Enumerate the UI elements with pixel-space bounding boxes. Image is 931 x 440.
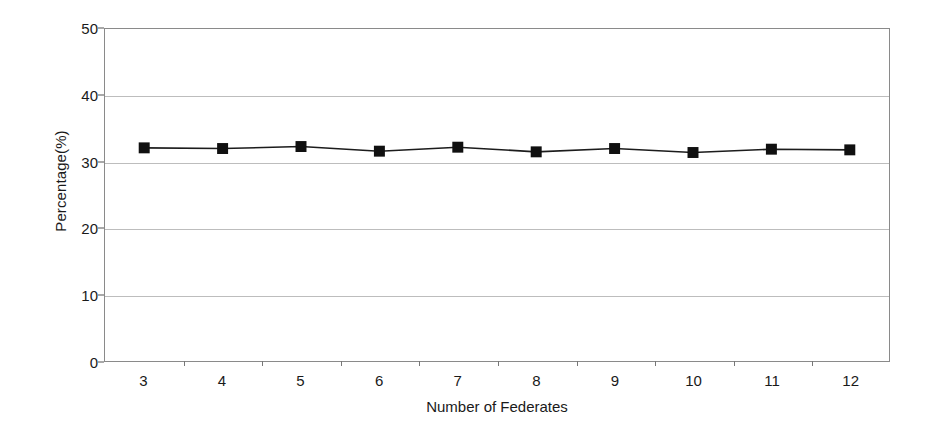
data-point-marker bbox=[688, 147, 699, 158]
x-axis-tick-mark bbox=[184, 361, 185, 366]
plot-area bbox=[104, 28, 890, 362]
x-axis-tick-mark bbox=[419, 361, 420, 366]
x-axis-tick-label: 8 bbox=[532, 372, 540, 389]
y-axis-tick-label: 40 bbox=[81, 86, 98, 103]
data-series-line bbox=[105, 29, 889, 361]
data-point-marker bbox=[139, 142, 150, 153]
x-axis-tick-label: 12 bbox=[842, 372, 859, 389]
data-point-marker bbox=[766, 144, 777, 155]
y-axis-tick-labels: 01020304050 bbox=[56, 28, 98, 362]
x-axis-tick-label: 11 bbox=[764, 372, 780, 389]
y-axis-tick-label: 10 bbox=[81, 287, 98, 304]
y-axis-tick-label: 20 bbox=[81, 220, 98, 237]
x-axis-tick-mark bbox=[262, 361, 263, 366]
y-axis-tick-label: 0 bbox=[90, 354, 98, 371]
x-axis-tick-label: 6 bbox=[375, 372, 383, 389]
y-axis-tick-label: 30 bbox=[81, 153, 98, 170]
x-axis-tick-mark bbox=[734, 361, 735, 366]
data-point-marker bbox=[609, 143, 620, 154]
x-axis-tick-mark bbox=[812, 361, 813, 366]
x-axis-tick-mark bbox=[577, 361, 578, 366]
data-point-marker bbox=[296, 141, 307, 152]
data-point-marker bbox=[452, 142, 463, 153]
x-axis-tick-mark bbox=[655, 361, 656, 366]
series-line bbox=[144, 147, 850, 153]
x-axis-tick-labels: 3456789101112 bbox=[104, 372, 890, 394]
data-point-marker bbox=[844, 144, 855, 155]
chart-container: Percentage(%) 01020304050 3456789101112 … bbox=[0, 0, 931, 440]
x-axis-tick-mark bbox=[341, 361, 342, 366]
x-axis-tick-label: 3 bbox=[139, 372, 147, 389]
x-axis-tick-mark bbox=[498, 361, 499, 366]
x-axis-tick-label: 4 bbox=[218, 372, 226, 389]
data-point-marker bbox=[374, 146, 385, 157]
x-axis-tick-label: 5 bbox=[296, 372, 304, 389]
x-axis-tick-label: 10 bbox=[685, 372, 702, 389]
data-point-marker bbox=[217, 143, 228, 154]
data-point-marker bbox=[531, 146, 542, 157]
x-axis-title: Number of Federates bbox=[104, 398, 890, 415]
y-axis-tick-label: 50 bbox=[81, 20, 98, 37]
x-axis-tick-label: 7 bbox=[454, 372, 462, 389]
x-axis-tick-label: 9 bbox=[611, 372, 619, 389]
